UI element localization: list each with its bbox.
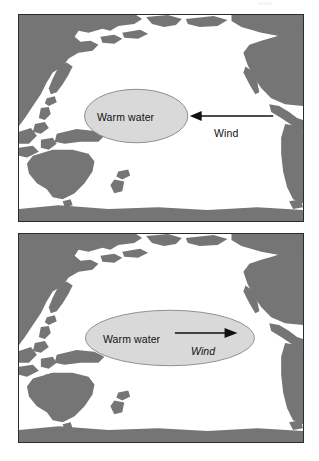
warm-pool-overlay-top bbox=[19, 15, 303, 221]
el-nino-conditions-panel: Warm water Wind bbox=[18, 233, 304, 443]
scan-artifact bbox=[258, 2, 272, 5]
wind-label-bottom: Wind bbox=[191, 346, 215, 357]
warm-pool-overlay-bottom bbox=[19, 234, 303, 442]
wind-label-top: Wind bbox=[214, 128, 238, 139]
warm-water-label-top: Warm water bbox=[97, 112, 154, 123]
wind-arrow-left bbox=[190, 111, 273, 121]
warm-water-label-bottom: Warm water bbox=[103, 334, 160, 345]
normal-conditions-panel: Warm water Wind bbox=[18, 14, 304, 222]
pacific-wind-figure: Warm water Wind bbox=[0, 0, 319, 461]
